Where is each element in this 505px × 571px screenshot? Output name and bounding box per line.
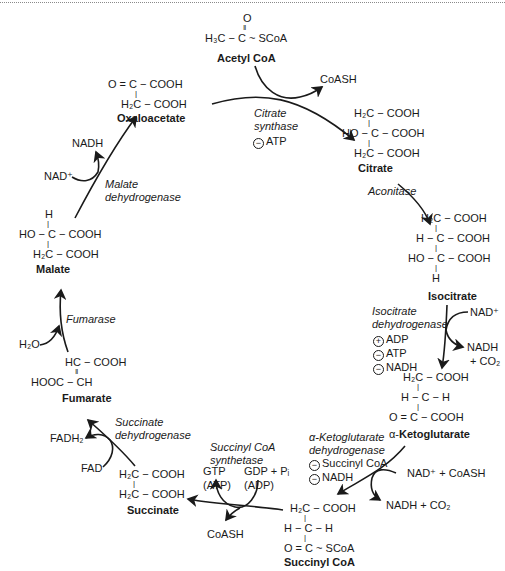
enzyme-line: dehydrogenase — [372, 318, 448, 331]
cofactor-fad: FAD — [81, 462, 102, 474]
structure-row: HO − C − COOH — [19, 228, 102, 240]
regulators-akg-dehydrogenase: −Succinyl CoA −NADH — [309, 457, 387, 485]
structure-row: O = C − COOH — [108, 78, 187, 90]
bond-row: | — [401, 403, 469, 411]
arrow-h2o-in — [40, 326, 59, 345]
bond-row: ‖ — [31, 368, 126, 376]
molecule-oxaloacetate: O = C − COOH | H₂C − COOH — [108, 78, 187, 110]
regulator-label: Succinyl CoA — [322, 457, 387, 469]
enzyme-akg-dehydrogenase: α-Ketoglutarate dehydrogenase — [309, 431, 385, 457]
structure-row: HC − COOH — [31, 356, 126, 368]
structure-row: H − C − COOH — [408, 232, 491, 244]
enzyme-line: dehydrogenase — [309, 444, 385, 457]
structure-row: H₂C − COOH — [284, 502, 356, 514]
structure-row: H₃C − C ~ SCoA — [205, 32, 287, 44]
regulator-adp: +ADP — [373, 333, 417, 347]
bond-row: | — [19, 240, 102, 248]
enzyme-line: synthase — [254, 120, 298, 133]
structure-row: H₂C − COOH — [19, 248, 102, 260]
regulator-label: ATP — [266, 135, 287, 147]
molecule-alpha-ketoglutarate: H₂C − COOH | H − C − H | O = C − COOH — [401, 371, 469, 423]
cofactor-gtp: GTP — [203, 465, 226, 477]
alpha-prefix: α- — [389, 428, 399, 440]
regulator-label: NADH — [322, 471, 353, 483]
arrow-to-coash-bottom — [226, 508, 240, 520]
structure-row: HO − C − COOH — [408, 252, 491, 264]
molecule-succinyl-coa: H₂C − COOH | H − C − H | O = C ~ SCoA — [284, 502, 356, 554]
structure-row: H₂C − COOH — [342, 147, 425, 159]
cofactor-atp-paren: (ATP) — [203, 479, 231, 491]
bond-row: | — [119, 480, 185, 488]
cofactor-nad-malate: NAD⁺ — [44, 170, 73, 182]
regulators-isocitrate-dehydrogenase: +ADP −ATP −NADH — [373, 333, 417, 375]
cofactor-nad-coash-akg: NAD⁺ + CoASH — [407, 467, 485, 479]
arrow-nad-to-nadh-malate — [72, 152, 99, 181]
regulator-atp: −ATP — [373, 347, 417, 361]
bond-row: ‖ — [205, 24, 287, 32]
enzyme-citrate-synthase: Citrate synthase — [254, 107, 298, 133]
molecule-acetyl-coa: O ‖ H₃C − C ~ SCoA — [205, 12, 287, 44]
activator-icon: + — [373, 336, 384, 347]
structure-row: H − C − H — [284, 522, 356, 534]
regulator-label: ADP — [386, 333, 409, 345]
cofactor-coash-bottom: CoASH — [207, 528, 244, 540]
structure-row: HOOC − CH — [31, 376, 126, 388]
structure-row: O = C − COOH — [389, 411, 469, 423]
regulator-citrate-synthase-atp: −ATP — [253, 135, 287, 149]
structure-row: H₂C − COOH — [108, 98, 187, 110]
molecule-malate: H | HO − C − COOH | H₂C − COOH — [19, 208, 102, 260]
label-oxaloacetate: Oxaloacetate — [117, 112, 185, 124]
bond-row: | — [19, 220, 102, 228]
enzyme-line: Succinate — [115, 416, 191, 429]
inhibitor-icon: − — [309, 474, 320, 485]
arrow-nad-to-nadh-iso — [446, 312, 468, 347]
label-succinate: Succinate — [127, 504, 179, 516]
structure-row: H₂C − COOH — [119, 488, 185, 500]
cofactor-gdp-pi: GDP + Pᵢ — [244, 465, 289, 477]
enzyme-malate-dehydrogenase: Malate dehydrogenase — [105, 178, 181, 204]
molecule-fumarate: HC − COOH ‖ HOOC − CH — [31, 356, 126, 388]
structure-row: H₂C − COOH — [342, 107, 425, 119]
bond-row: | — [342, 139, 425, 147]
structure-row: H — [408, 272, 491, 284]
inhibitor-icon: − — [309, 460, 320, 471]
structure-row: H — [19, 208, 102, 220]
bond-row: | — [408, 224, 491, 232]
arrow-acetylcoa-to-coash — [255, 66, 322, 98]
structure-row: H₂C − COOH — [408, 212, 491, 224]
label-citrate: Citrate — [358, 162, 393, 174]
structure-row: H₂C − COOH — [401, 371, 469, 383]
cofactor-nadh-iso: NADH — [467, 341, 498, 353]
enzyme-line: α-Ketoglutarate — [309, 431, 385, 444]
enzyme-line: dehydrogenase — [105, 191, 181, 204]
enzyme-succinyl-coa-synthetase: Succinyl CoA synthetase — [210, 441, 275, 467]
label-fumarate: Fumarate — [62, 392, 112, 404]
molecule-citrate: H₂C − COOH | HO − C − COOH | H₂C − COOH — [342, 107, 425, 159]
label-alpha-ketoglutarate: α-Ketoglutarate — [389, 428, 470, 440]
cofactor-coash-top: CoASH — [320, 73, 357, 85]
structure-row: HO − C − COOH — [342, 127, 425, 139]
enzyme-succinate-dehydrogenase: Succinate dehydrogenase — [115, 416, 191, 442]
enzyme-line: Citrate — [254, 107, 298, 120]
inhibitor-icon: − — [373, 364, 384, 375]
bond-row: | — [401, 383, 469, 391]
arrow-succinylcoa-to-succinate — [188, 499, 283, 510]
label-acetyl-coa: Acetyl CoA — [217, 52, 276, 64]
regulator-succinyl-coa: −Succinyl CoA — [309, 457, 387, 471]
inhibitor-icon: − — [373, 350, 384, 361]
enzyme-line: Malate — [105, 178, 181, 191]
structure-row: O — [205, 12, 287, 24]
enzyme-fumarase: Fumarase — [66, 313, 116, 326]
bond-row: | — [284, 534, 356, 542]
molecule-succinate: H₂C − COOH | H₂C − COOH — [119, 468, 185, 500]
enzyme-line: Isocitrate — [372, 305, 448, 318]
cofactor-fadh2: FADH₂ — [50, 432, 84, 444]
label-isocitrate: Isocitrate — [428, 290, 477, 302]
cofactor-nadh-malate: NADH — [72, 137, 103, 149]
bond-row: | — [108, 90, 187, 98]
enzyme-aconitase: Aconitase — [368, 185, 416, 198]
bond-row: | — [408, 264, 491, 272]
cofactor-h2o: H₂O — [19, 338, 40, 350]
cofactor-adp-paren: (ADP) — [244, 479, 274, 491]
molecule-isocitrate: H₂C − COOH | H − C − COOH | HO − C − COO… — [408, 212, 491, 284]
